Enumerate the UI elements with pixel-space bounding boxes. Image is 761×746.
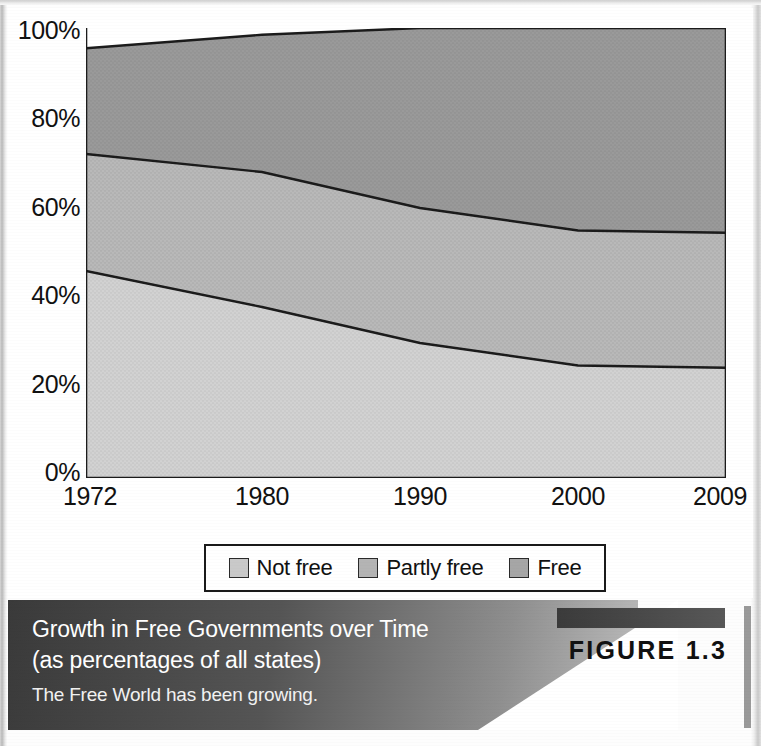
- legend-item-free: Free: [509, 555, 581, 581]
- x-tick-1980: 1980: [235, 482, 289, 511]
- page-edge-left: [0, 0, 7, 746]
- figure-page: 100% 80% 60% 40% 20% 0%: [0, 0, 761, 746]
- x-tick-1990: 1990: [393, 482, 447, 511]
- legend-swatch-not-free: [229, 558, 249, 578]
- caption-title-line2: (as percentages of all states): [32, 645, 552, 676]
- legend-swatch-free: [509, 558, 529, 578]
- y-tick-60: 60%: [31, 193, 80, 222]
- legend-swatch-partly-free: [358, 558, 378, 578]
- figure-tag: FIGURE 1.3: [545, 608, 733, 665]
- legend-label-free: Free: [537, 555, 581, 581]
- caption-text-block: Growth in Free Governments over Time (as…: [32, 614, 552, 709]
- figure-caption-bar: Growth in Free Governments over Time (as…: [8, 600, 753, 738]
- y-axis-labels: 100% 80% 60% 40% 20% 0%: [8, 8, 80, 508]
- y-tick-100: 100%: [18, 16, 80, 45]
- legend-item-partly-free: Partly free: [358, 555, 483, 581]
- y-tick-20: 20%: [31, 370, 80, 399]
- figure-tag-label: FIGURE 1.3: [545, 636, 733, 665]
- legend-item-not-free: Not free: [229, 555, 333, 581]
- figure-side-rule: [744, 606, 751, 728]
- page-edge-top: [0, 0, 761, 5]
- chart-legend: Not free Partly free Free: [204, 544, 606, 592]
- x-tick-2009: 2009: [693, 482, 747, 511]
- caption-subtitle: The Free World has been growing.: [32, 680, 552, 709]
- legend-label-not-free: Not free: [257, 555, 333, 581]
- x-tick-1972: 1972: [63, 482, 117, 511]
- chart-region: 100% 80% 60% 40% 20% 0%: [8, 8, 753, 598]
- caption-title-line1: Growth in Free Governments over Time: [32, 614, 552, 645]
- y-tick-80: 80%: [31, 104, 80, 133]
- y-tick-40: 40%: [31, 281, 80, 310]
- plot-area: [86, 28, 726, 478]
- stacked-area-plot: [86, 28, 726, 478]
- figure-tag-bar: [557, 608, 725, 628]
- x-axis-labels: 1972 1980 1990 2000 2009: [8, 482, 753, 522]
- x-tick-2000: 2000: [551, 482, 605, 511]
- legend-label-partly-free: Partly free: [386, 555, 483, 581]
